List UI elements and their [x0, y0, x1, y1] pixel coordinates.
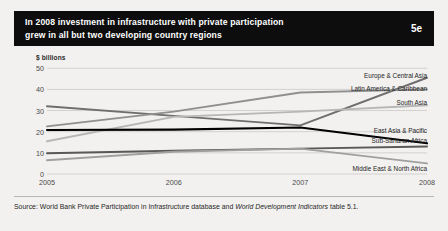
series-label: Middle East & North Africa	[352, 164, 427, 171]
y-tick-label: 20	[22, 127, 44, 136]
series-label: South Asia	[396, 99, 427, 106]
series-label: Europe & Central Asia	[364, 71, 427, 78]
series-label: Sub-Saharan Africa	[372, 136, 427, 143]
y-tick-label: 10	[22, 148, 44, 157]
series-label: Latin America & Caribbean	[351, 85, 427, 92]
footer-divider	[14, 196, 434, 197]
series-line	[47, 127, 427, 143]
source-prefix: Source: World Bank Private Participation…	[14, 203, 235, 210]
source-italic-title: World Development Indicators	[235, 203, 328, 210]
chart-page: In 2008 investment in infrastructure wit…	[0, 0, 448, 231]
x-tick-label: 2006	[166, 178, 182, 187]
source-note: Source: World Bank Private Participation…	[14, 203, 438, 210]
x-tick-label: 2005	[39, 178, 55, 187]
page-title: In 2008 investment in infrastructure wit…	[25, 16, 403, 41]
x-tick-label: 2007	[292, 178, 308, 187]
y-tick-label: 30	[22, 106, 44, 115]
x-tick-label: 2008	[419, 178, 435, 187]
y-tick-label: 40	[22, 85, 44, 94]
series-line	[47, 149, 427, 164]
source-suffix: table 5.1.	[328, 203, 358, 210]
series-label: East Asia & Pacific	[374, 126, 427, 133]
line-chart: $ billions 010203040502005200620072008 E…	[14, 46, 434, 192]
y-tick-label: 50	[22, 64, 44, 73]
header-banner: In 2008 investment in infrastructure wit…	[14, 11, 434, 46]
figure-number-badge: 5e	[403, 23, 422, 34]
